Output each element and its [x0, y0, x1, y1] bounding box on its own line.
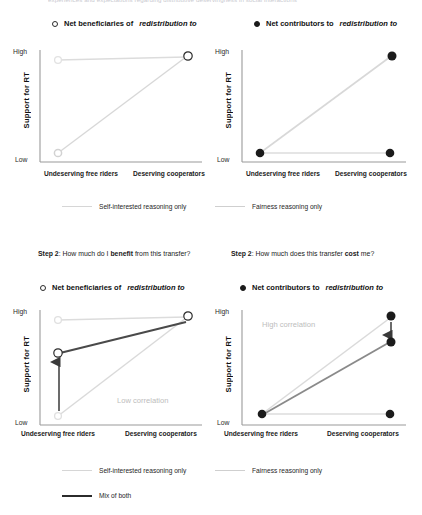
panel-title-bottom-left-plain: Net beneficiaries of	[52, 283, 121, 292]
series-line-fairness	[58, 57, 186, 153]
marker-point	[55, 413, 62, 420]
x-tick-left-top-right: Undeserving free riders	[246, 170, 320, 177]
marker-point	[184, 52, 192, 60]
y-tick-high-top-right: High	[215, 48, 229, 55]
panel-title-bottom-left-italic: redistribution to	[127, 283, 185, 292]
panel-title-top-right-plain: Net contributors to	[266, 19, 334, 28]
marker-point	[386, 149, 395, 158]
hollow-circle-icon	[52, 21, 58, 27]
annotation-high-correlation: High correlation	[262, 320, 315, 329]
legend-line-swatch-icon	[62, 206, 92, 207]
marker-point	[258, 410, 267, 419]
annotation-low-correlation: Low correlation	[117, 396, 169, 405]
legend-label: Self-interested reasoning only	[99, 467, 186, 474]
chart-top-left	[36, 48, 204, 170]
x-tick-right-bottom-left: Deserving cooperators	[125, 430, 197, 437]
solid-circle-icon	[240, 285, 246, 291]
step-left-bold: benefit	[110, 250, 133, 257]
legend-label: Mix of both	[99, 492, 131, 499]
legend-line-swatch-icon	[215, 470, 245, 471]
legend-bottom-self-interested: Self-interested reasoning only	[62, 467, 186, 474]
cut-off-header: experiences and expectations regarding d…	[48, 0, 378, 7]
panel-title-bottom-left: Net beneficiaries of redistribution to	[40, 283, 185, 292]
x-tick-left-top-left: Undeserving free riders	[44, 170, 118, 177]
legend-label: Fairness reasoning only	[252, 467, 322, 474]
legend-line-swatch-icon	[62, 495, 92, 497]
series-line-fairness	[260, 57, 390, 153]
step-right-text: : How much does this transfer	[252, 250, 345, 257]
y-tick-high-bottom-right: High	[215, 308, 229, 315]
step-left-text: : How much do I	[59, 250, 111, 257]
y-tick-high-bottom-left: High	[13, 308, 27, 315]
panel-title-top-right: Net contributors to redistribution to	[254, 19, 397, 28]
legend-bottom-fairness: Fairness reasoning only	[215, 467, 322, 474]
marker-point	[184, 312, 192, 320]
x-tick-right-top-right: Deserving cooperators	[335, 170, 407, 177]
series-line-self-interested	[58, 57, 186, 60]
figure-page: experiences and expectations regarding d…	[0, 0, 422, 515]
step-right-suffix: me?	[359, 250, 374, 257]
marker-point	[387, 312, 396, 321]
marker-point	[388, 52, 397, 61]
legend-top-self-interested: Self-interested reasoning only	[62, 203, 186, 210]
marker-point	[256, 149, 265, 158]
legend-label: Self-interested reasoning only	[99, 203, 186, 210]
series-line-fairness	[262, 318, 390, 414]
cut-off-header-text: experiences and expectations regarding d…	[48, 0, 378, 3]
y-tick-low-bottom-right: Low	[217, 419, 229, 426]
legend-bottom-mix: Mix of both	[62, 492, 131, 499]
solid-circle-icon	[254, 21, 260, 27]
marker-point	[55, 317, 62, 324]
y-tick-low-bottom-left: Low	[15, 419, 27, 426]
step-label-left: Step 2: How much do I benefit from this …	[38, 250, 190, 257]
panel-title-bottom-right-italic: redistribution to	[326, 283, 384, 292]
legend-line-swatch-icon	[215, 206, 245, 207]
marker-point	[54, 149, 61, 156]
panel-title-top-right-italic: redistribution to	[340, 19, 398, 28]
y-axis-label-bottom-right: Support for RT	[224, 336, 233, 392]
step-left-suffix: from this transfer?	[133, 250, 190, 257]
y-tick-high-top-left: High	[13, 48, 27, 55]
chart-top-right	[238, 48, 408, 170]
chart-bottom-left	[36, 308, 204, 433]
legend-line-swatch-icon	[62, 470, 92, 471]
panel-title-top-left: Net beneficiaries of redistribution to	[52, 19, 197, 28]
series-line-mix	[60, 322, 186, 353]
x-tick-left-bottom-left: Undeserving free riders	[21, 430, 95, 437]
panel-title-top-left-italic: redistribution to	[139, 19, 197, 28]
y-axis-label-bottom-left: Support for RT	[22, 336, 31, 392]
x-tick-right-top-left: Deserving cooperators	[133, 170, 205, 177]
step-right-bold: cost	[345, 250, 359, 257]
step-label-right: Step 2: How much does this transfer cost…	[231, 250, 374, 257]
marker-point	[387, 338, 396, 347]
marker-point	[54, 349, 62, 357]
y-tick-low-top-left: Low	[15, 156, 27, 163]
marker-point	[55, 57, 62, 64]
legend-top-fairness: Fairness reasoning only	[215, 203, 322, 210]
step-right-prefix: Step 2	[231, 250, 252, 257]
x-tick-right-bottom-right: Deserving cooperators	[327, 430, 399, 437]
y-axis-label-top-left: Support for RT	[22, 72, 31, 128]
panel-title-bottom-right-plain: Net contributors to	[252, 283, 320, 292]
y-tick-low-top-right: Low	[217, 156, 229, 163]
step-left-prefix: Step 2	[38, 250, 59, 257]
hollow-circle-icon	[40, 285, 46, 291]
series-line-self-interested	[58, 317, 186, 320]
series-line-mix	[262, 342, 390, 415]
legend-label: Fairness reasoning only	[252, 203, 322, 210]
x-tick-left-bottom-right: Undeserving free riders	[224, 430, 298, 437]
panel-title-top-left-plain: Net beneficiaries of	[64, 19, 133, 28]
y-axis-label-top-right: Support for RT	[224, 72, 233, 128]
marker-point	[386, 410, 395, 419]
panel-title-bottom-right: Net contributors to redistribution to	[240, 283, 383, 292]
